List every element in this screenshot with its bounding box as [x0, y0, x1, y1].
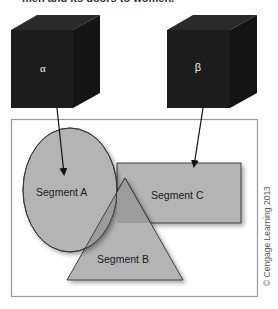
cube-beta [167, 15, 257, 108]
segment-c-label: Segment C [151, 189, 204, 201]
segment-b-label: Segment B [97, 253, 149, 265]
cube-beta-label: β [191, 61, 205, 73]
copyright-credit: © Cengage Learning 2013 [262, 186, 272, 286]
cube-alpha-label: α [36, 62, 50, 74]
cube-alpha [11, 15, 100, 108]
segment-a-label: Segment A [36, 186, 87, 198]
